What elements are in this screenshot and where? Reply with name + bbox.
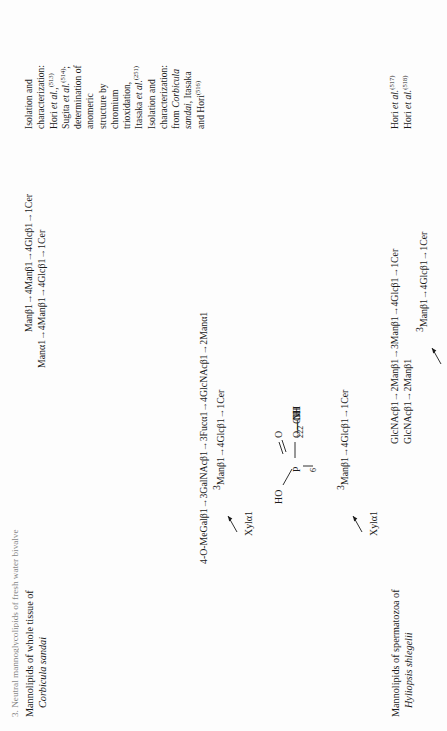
structure-cell-hyliopsis: GlcNAcβ1→2Manβ1→3Manβ1→4Glcβ1→1Cer GlcNA… — [380, 129, 447, 564]
branch-position: 3 — [414, 327, 425, 332]
ethanolamine-chain-label: O—CH2—CH2—NH2 — [291, 426, 306, 438]
branch-arrow-icon — [227, 496, 239, 536]
ref-author: Hori — [48, 111, 59, 129]
ref-author: , Itasaka — [182, 71, 193, 103]
ref-etal: et al., — [48, 87, 59, 111]
ref-text: from — [170, 108, 181, 129]
table-row: Mannolipids of spermatozoa of Hyliopsis … — [380, 2, 447, 717]
reference-line: Sugita et al.(514); — [60, 12, 72, 129]
reference-cell-corbicula: Isolation and characterization: Hori et … — [23, 2, 380, 129]
ref-number: (516) — [194, 81, 201, 95]
reference-line: chromium — [109, 12, 121, 129]
ref-number: (518) — [400, 76, 407, 90]
reference-spacer — [414, 12, 447, 129]
ref-etal: et al. — [60, 83, 71, 105]
structure-line: Manα1→4Manβ1→4Glcβ1→1Cer — [36, 139, 49, 564]
ref-punct: ; — [60, 66, 71, 69]
ref-etal: et al. — [389, 90, 400, 112]
reference-line: Isolation and — [146, 12, 158, 129]
ref-number: (251) — [132, 66, 139, 80]
phosphodiester-bonds-icon — [273, 364, 335, 564]
reference-line: characterization: — [158, 12, 170, 129]
ref-number: (517) — [388, 76, 395, 90]
ref-number: (513) — [46, 73, 53, 87]
reference-line: Hori et al.(517) — [389, 12, 401, 129]
source-species: Hyliopsis shlegelii — [402, 574, 415, 717]
reference-line: and Hori(516) — [195, 12, 207, 129]
structure-arrow — [352, 139, 368, 564]
source-cell-hyliopsis: Mannolipids of spermatozoa of Hyliopsis … — [380, 564, 447, 717]
source-cell-corbicula: Mannolipids of whole tissue of Corbicula… — [23, 564, 380, 717]
ref-number: (514) — [59, 69, 66, 83]
structure-arrow — [227, 139, 243, 564]
ref-etal: et al. — [402, 90, 413, 112]
structure-line-text: Manβ1→4Glcβ1→1Cer — [215, 390, 226, 485]
ref-author: Hori — [389, 111, 400, 129]
table-heading-row: 3. Neutral mannoglycolipids of fresh wat… — [10, 2, 23, 717]
ref-author: Itasaka — [133, 102, 144, 129]
structure-arrow — [431, 139, 447, 564]
branch-arrow-icon — [431, 328, 443, 368]
ref-species: Corbicula — [170, 69, 181, 108]
phosphate-o-label: O — [273, 431, 286, 438]
rotated-page-container: 3. Neutral mannoglycolipids of fresh wat… — [0, 0, 447, 731]
reference-line: Itasaka et al.(251) — [133, 12, 145, 129]
ref-author: and Hori — [195, 95, 206, 129]
table-row: Mannolipids of whole tissue of Corbicula… — [23, 2, 380, 717]
reference-line: characterization: — [35, 12, 47, 129]
branch-position: 3 — [211, 485, 222, 490]
phosphate-ho-label: HO — [273, 490, 286, 504]
structure-line-branched: 3Manβ1→4Glcβ1→1Cer — [211, 139, 228, 564]
reference-line: sandai, Itasaka — [182, 12, 194, 129]
glycolipid-structure-table: 3. Neutral mannoglycolipids of fresh wat… — [10, 2, 447, 717]
source-name: Mannolipids of whole tissue of — [24, 590, 35, 717]
source-name: Mannolipids of spermatozoa of — [390, 589, 401, 717]
phosphate-position-6: 6 — [309, 468, 319, 472]
reference-line: determination of — [72, 12, 84, 129]
structure-line: Xylα1 — [368, 139, 381, 564]
structure-line-text: Manβ1→4Glcβ1→1Cer — [419, 232, 430, 327]
structure-line: GlcNAcβ1→2Manβ1→3Manβ1→4Glcβ1→1Cer — [389, 139, 402, 564]
ref-author: Sugita — [60, 104, 71, 129]
clipped-heading-cell: 3. Neutral mannoglycolipids of fresh wat… — [10, 2, 23, 717]
source-species: Corbicula sandai — [36, 574, 49, 717]
ref-species: sandai — [182, 103, 193, 129]
reference-line: from Corbicula — [170, 12, 182, 129]
phosphodiester-diagram: HO O P O—CH2—CH2—NH2 6 — [273, 139, 335, 564]
structure-line-branched: 3Manβ1→4Glcβ1→1Cer — [414, 139, 431, 564]
ref-author: Hori — [402, 111, 413, 129]
structure-line-branched: 3Manβ1→4Glcβ1→1Cer — [335, 139, 352, 564]
ref-etal: et al. — [133, 80, 144, 102]
document-page: 3. Neutral mannoglycolipids of fresh wat… — [0, 0, 447, 731]
reference-line: anomeric — [84, 12, 96, 129]
clipped-heading-text: 3. Neutral mannoglycolipids of fresh wat… — [10, 12, 19, 717]
reference-line: structure by — [97, 12, 109, 129]
reference-line: Isolation and — [23, 12, 35, 129]
structure-line: Manβ1→4Manβ1→4Glcβ1→1Cer — [23, 139, 36, 564]
structure-cell-corbicula: Manβ1→4Manβ1→4Glcβ1→1Cer Manα1→4Manβ1→4G… — [23, 129, 380, 564]
reference-cell-hyliopsis: Hori et al.(517) Hori et al.(518) Hori e… — [380, 2, 447, 129]
branch-position: 3 — [335, 485, 346, 490]
chain-seg: —NH — [291, 406, 304, 430]
structure-line: 4-O-MeGalβ1→3GalNAcβ1→3Fucα1→4GlcNAcβ1→2… — [198, 139, 211, 564]
branch-arrow-icon — [352, 496, 364, 536]
phosphate-p-label: P — [291, 466, 304, 471]
reference-line: Hori et al.(518) — [402, 12, 414, 129]
structure-line: GlcNAcβ1→2Manβ1 — [402, 139, 415, 564]
structure-line: Xylα1 — [243, 139, 256, 564]
structure-line-text: Manβ1→4Glcβ1→1Cer — [340, 390, 351, 485]
